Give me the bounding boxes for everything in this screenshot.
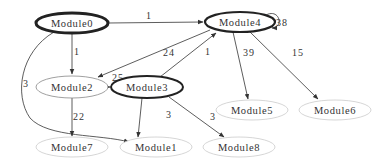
module-dependency-graph: 1 1 3 38 24 39 15 25 22 1 3 3 — [0, 0, 387, 167]
edge-label-module0-module4: 1 — [146, 10, 152, 21]
node-label-module6: Module6 — [314, 105, 356, 116]
node-module5[interactable]: Module5 — [216, 100, 288, 120]
node-module6[interactable]: Module6 — [299, 100, 371, 120]
node-module8[interactable]: Module8 — [203, 137, 275, 157]
node-module4[interactable]: Module4 — [205, 12, 275, 32]
edge-label-module4-module6: 15 — [292, 47, 304, 58]
node-label-module3: Module3 — [126, 82, 168, 93]
edge-module3-module1[interactable] — [138, 98, 142, 137]
edge-module0-module4[interactable] — [108, 22, 203, 23]
edge-module4-module6[interactable] — [250, 32, 318, 99]
node-label-module2: Module2 — [51, 82, 93, 93]
node-label-module4: Module4 — [219, 17, 261, 28]
node-module0[interactable]: Module0 — [36, 13, 108, 33]
node-label-module7: Module7 — [51, 142, 93, 153]
node-module2[interactable]: Module2 — [36, 76, 108, 98]
node-label-module1: Module1 — [135, 142, 177, 153]
edge-label-module2-module7: 22 — [73, 111, 85, 122]
edge-label-module0-module1: 3 — [23, 78, 29, 89]
node-module3[interactable]: Module3 — [111, 76, 183, 98]
edge-label-module3-module8: 3 — [210, 111, 216, 122]
node-label-module8: Module8 — [218, 142, 260, 153]
node-module7[interactable]: Module7 — [36, 137, 108, 157]
edge-label-module4-module2: 24 — [163, 47, 175, 58]
edge-label-module3-module4: 1 — [205, 46, 211, 57]
nodes: Module0 Module4 Module2 Module3 Module5 … — [36, 12, 371, 157]
edge-label-module0-module2: 1 — [74, 46, 80, 57]
edge-label-module4-module5: 39 — [243, 47, 255, 58]
node-label-module5: Module5 — [231, 105, 273, 116]
node-label-module0: Module0 — [51, 18, 93, 29]
edge-label-module3-module1: 3 — [166, 109, 172, 120]
edge-label-module4-self: 38 — [276, 17, 288, 28]
node-module1[interactable]: Module1 — [120, 137, 192, 157]
edge-module4-module2[interactable] — [98, 30, 210, 77]
edge-module4-module5[interactable] — [233, 32, 248, 99]
